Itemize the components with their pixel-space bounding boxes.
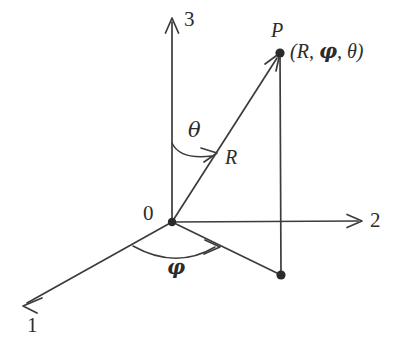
radius-label: R: [225, 147, 237, 167]
theta-arc-arrowhead: [201, 148, 217, 162]
axis-2-label: 2: [370, 210, 381, 231]
origin-label: 0: [143, 203, 154, 224]
origin-point-dot: [168, 218, 176, 226]
coords-phi-symbol: φ: [319, 39, 337, 63]
plane-projection-line: [172, 222, 281, 275]
point-p-dot: [275, 48, 284, 57]
projection-point-dot: [276, 270, 285, 279]
axis-2-line: [172, 221, 358, 222]
phi-angle-label: φ: [167, 257, 185, 277]
axis-3-label: 3: [184, 9, 195, 30]
axis-1-line: [27, 222, 172, 303]
vertical-drop-line: [280, 53, 281, 275]
coords-prefix: (R,: [290, 40, 319, 62]
point-p-label: P: [271, 20, 283, 40]
theta-angle-label: θ: [188, 120, 201, 141]
coords-suffix: , θ): [337, 40, 363, 62]
spherical-coordinates-figure: 3 2 1 0 P (R, φ, θ) θ φ R: [0, 0, 399, 350]
point-p-coordinates-label: (R, φ, θ): [290, 41, 363, 61]
axis-1-label: 1: [27, 315, 38, 336]
